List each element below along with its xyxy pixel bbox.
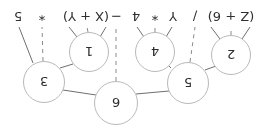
tree-node-4[interactable]: 4 (135, 32, 175, 72)
edge-n3-l8-dashed (42, 27, 43, 61)
tree-node-label: 2 (227, 49, 235, 62)
tree-node-2[interactable]: 2 (211, 35, 251, 75)
tree-node-label: 4 (151, 46, 159, 59)
leaf-token-minus: − (111, 10, 122, 23)
tree-node-label: 6 (112, 97, 120, 110)
diagram-canvas: 6 5 3 2 4 1 (Z + 6) / Y * 4 − (X + Y) * … (0, 0, 266, 128)
tree-node-label: 5 (184, 77, 192, 90)
tree-node-3[interactable]: 3 (23, 61, 65, 103)
rotated-diagram-group: 6 5 3 2 4 1 (Z + 6) / Y * 4 − (X + Y) * … (0, 0, 266, 128)
edge-n6-n3 (63, 90, 96, 95)
leaf-token-z-plus-6: (Z + 6) (208, 10, 254, 23)
leaf-token-4: 4 (132, 10, 140, 23)
leaf-token-multiply-right: * (39, 10, 46, 23)
tree-node-root[interactable]: 6 (94, 81, 138, 125)
edge-n2-l1-right (211, 27, 220, 39)
leaf-token-y: Y (169, 10, 177, 23)
edge-n2-l1-left (242, 27, 250, 39)
tree-node-label: 3 (40, 76, 48, 89)
edge-n5-l2-dashed (190, 27, 195, 62)
leaf-token-divide: / (193, 10, 197, 23)
leaf-token-x-plus-y: (X + Y) (63, 10, 109, 23)
leaf-token-multiply-left: * (152, 10, 159, 23)
tree-node-5[interactable]: 5 (167, 62, 209, 104)
leaf-token-5: 5 (14, 10, 22, 23)
tree-node-1[interactable]: 1 (69, 32, 109, 72)
edge-n3-l9 (19, 27, 33, 63)
edge-n6-n5 (136, 91, 169, 94)
edge-n3-n1 (60, 64, 73, 68)
tree-node-label: 1 (85, 46, 93, 59)
